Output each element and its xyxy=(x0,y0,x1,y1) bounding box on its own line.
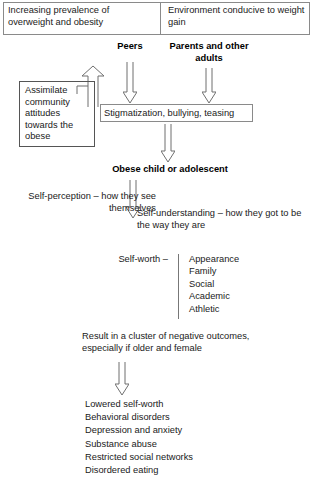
outcome-item: Restricted social networks xyxy=(85,451,300,464)
parents-label: Parents and other adults xyxy=(166,40,252,64)
arrow-result-to-outcomes xyxy=(115,362,129,397)
self-worth-domain-item: Athletic xyxy=(189,303,299,315)
self-worth-domain-item: Family xyxy=(189,265,299,277)
outcome-item: Behavioral disorders xyxy=(85,411,300,424)
banner-right-text: Environment conducive to weight gain xyxy=(168,4,308,28)
outcome-item: Lowered self-worth xyxy=(85,398,300,411)
assimilate-box-text: Assimilate community attitudes towards t… xyxy=(25,85,91,143)
outcome-item: Disordered eating xyxy=(85,464,300,477)
obesity-pathway-diagram: Increasing prevalence of overweight and … xyxy=(0,0,315,484)
self-worth-domain-list: AppearanceFamilySocialAcademicAthletic xyxy=(189,253,299,315)
outcome-item: Depression and anxiety xyxy=(85,424,300,437)
self-worth-domain-item: Appearance xyxy=(189,253,299,265)
banner-left-text: Increasing prevalence of overweight and … xyxy=(8,4,156,28)
banner-divider xyxy=(160,2,161,35)
self-worth-domain-item: Academic xyxy=(189,290,299,302)
result-statement-text: Result in a cluster of negative outcomes… xyxy=(82,330,292,355)
arrow-parents-to-stigmatization xyxy=(202,68,216,105)
self-worth-label: Self-worth – xyxy=(86,253,168,265)
obese-child-label: Obese child or adolescent xyxy=(80,163,260,175)
self-worth-domain-item: Social xyxy=(189,278,299,290)
arrow-peers-to-stigmatization xyxy=(123,62,137,105)
stigmatization-box-text: Stigmatization, bullying, teasing xyxy=(104,107,252,119)
outcome-list: Lowered self-worthBehavioral disordersDe… xyxy=(85,398,300,477)
outcome-item: Substance abuse xyxy=(85,438,300,451)
self-perception-text: Self-perception – how they see themselve… xyxy=(6,190,156,215)
self-worth-bracket-rule xyxy=(178,254,179,319)
peers-label: Peers xyxy=(100,40,160,52)
self-understanding-text: Self-understanding – how they got to be … xyxy=(137,207,312,232)
arrow-stigmatization-to-obese xyxy=(161,124,175,164)
